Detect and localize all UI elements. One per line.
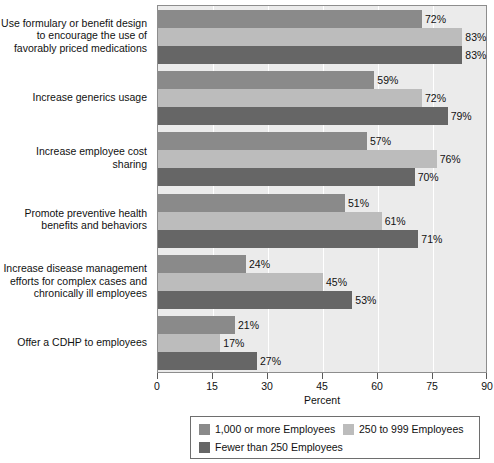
bar-value-label: 24% (246, 255, 270, 273)
category-label: Promote preventive healthbenefits and be… (1, 207, 147, 232)
bar (158, 316, 235, 334)
x-axis-tick-label: 15 (206, 380, 218, 392)
bar-value-label: 83% (462, 28, 486, 46)
plot-area: 72%83%83%59%72%79%57%76%70%51%61%71%24%4… (157, 5, 487, 373)
bar (158, 28, 462, 46)
x-axis-title: Percent (157, 394, 487, 406)
bar-value-label: 17% (220, 334, 244, 352)
bar-value-label: 61% (382, 212, 406, 230)
legend-swatch-icon (343, 424, 354, 435)
x-axis-tick-label: 0 (154, 380, 160, 392)
bar (158, 273, 323, 291)
bar-value-label: 71% (418, 230, 442, 248)
bar-value-label: 70% (415, 168, 439, 186)
legend-item[interactable]: Fewer than 250 Employees (199, 441, 343, 453)
bar-value-label: 27% (257, 352, 281, 370)
category-label: Offer a CDHP to employees (1, 336, 147, 349)
bar (158, 352, 257, 370)
x-axis-tick-label: 75 (426, 380, 438, 392)
bar-value-label: 79% (448, 107, 472, 125)
bar (158, 291, 352, 309)
category-label: Increase disease managementefforts for c… (1, 262, 147, 300)
legend-swatch-icon (199, 424, 210, 435)
x-axis-tick-label: 45 (316, 380, 328, 392)
bar (158, 89, 422, 107)
bar (158, 46, 462, 64)
x-axis-tick-label: 90 (481, 380, 493, 392)
bar-value-label: 45% (323, 273, 347, 291)
bar-value-label: 59% (374, 71, 398, 89)
chart-legend: 1,000 or more Employees250 to 999 Employ… (190, 416, 480, 459)
bar-value-label: 72% (422, 89, 446, 107)
legend-label: 250 to 999 Employees (359, 423, 464, 435)
grouped-bar-chart: Use formulary or benefit designto encour… (0, 0, 494, 463)
bar-value-label: 72% (422, 10, 446, 28)
x-axis-tick (267, 373, 268, 379)
bar-value-label: 51% (345, 194, 369, 212)
bar (158, 212, 382, 230)
bar (158, 10, 422, 28)
bar-value-label: 21% (235, 316, 259, 334)
bar (158, 230, 418, 248)
bar (158, 168, 415, 186)
legend-label: 1,000 or more Employees (215, 423, 335, 435)
legend-swatch-icon (199, 442, 210, 453)
legend-item[interactable]: 250 to 999 Employees (343, 423, 464, 435)
bar-value-label: 76% (437, 150, 461, 168)
bar-value-label: 83% (462, 46, 486, 64)
legend-item[interactable]: 1,000 or more Employees (199, 423, 335, 435)
x-axis-tick-label: 30 (261, 380, 273, 392)
bar-value-label: 57% (367, 132, 391, 150)
bar (158, 334, 220, 352)
category-label: Increase generics usage (1, 91, 147, 104)
bar (158, 255, 246, 273)
category-label: Use formulary or benefit designto encour… (1, 17, 147, 55)
bar (158, 107, 448, 125)
bar (158, 132, 367, 150)
category-axis: Use formulary or benefit designto encour… (0, 5, 152, 373)
bar (158, 194, 345, 212)
bar (158, 150, 437, 168)
x-axis-tick (157, 373, 158, 379)
bar-value-label: 53% (352, 291, 376, 309)
category-label: Increase employee cost sharing (1, 146, 147, 171)
x-axis-tick (212, 373, 213, 379)
x-axis-tick (486, 373, 487, 379)
bar (158, 71, 374, 89)
legend-label: Fewer than 250 Employees (215, 441, 343, 453)
x-axis-tick (377, 373, 378, 379)
x-axis-tick (432, 373, 433, 379)
x-axis-tick-label: 60 (371, 380, 383, 392)
x-axis: 0153045607590 (157, 373, 487, 381)
x-axis-tick (322, 373, 323, 379)
